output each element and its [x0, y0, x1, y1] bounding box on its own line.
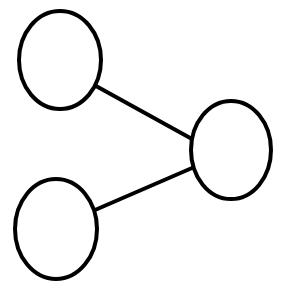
nodes — [15, 11, 271, 279]
node-top-left — [19, 11, 101, 109]
node-right — [191, 101, 271, 199]
edge-node-bottom-left-to-node-right — [95, 168, 192, 210]
network-diagram — [0, 0, 282, 292]
edge-node-top-left-to-node-right — [96, 86, 192, 139]
node-bottom-left — [15, 179, 97, 279]
edges — [95, 86, 192, 210]
